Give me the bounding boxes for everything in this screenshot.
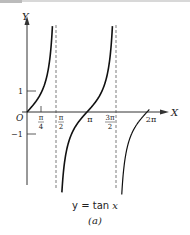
svg-text:4: 4 bbox=[39, 123, 44, 131]
x-tick-label-pi: π bbox=[87, 115, 92, 124]
y-tick-label-minus-1: −1 bbox=[11, 130, 23, 139]
origin-label: O bbox=[16, 113, 24, 123]
chart-subcaption: (a) bbox=[0, 215, 190, 226]
svg-text:π: π bbox=[39, 114, 44, 122]
x-tick-label-pi-over-4: π 4 bbox=[38, 114, 44, 131]
x-axis-label: X bbox=[170, 107, 179, 118]
svg-text:π: π bbox=[59, 114, 64, 122]
x-tick-label-3pi-over-2: 3π 2 bbox=[105, 114, 115, 131]
svg-text:3π: 3π bbox=[105, 114, 114, 122]
x-tick-label-pi-over-2: π 2 bbox=[58, 114, 64, 131]
x-axis-arrow-icon bbox=[160, 110, 169, 115]
tan-branch-2 bbox=[62, 26, 113, 192]
top-border-mark bbox=[0, 0, 22, 3]
chart-equation: y = tan x bbox=[0, 200, 190, 211]
y-tick-label-1: 1 bbox=[18, 87, 23, 96]
tan-branch-1 bbox=[27, 26, 52, 112]
top-border bbox=[0, 0, 190, 2]
x-tick-label-2pi: 2π bbox=[146, 115, 156, 124]
svg-text:2: 2 bbox=[59, 123, 63, 131]
y-axis-label: Y bbox=[22, 11, 30, 22]
svg-text:2: 2 bbox=[108, 123, 112, 131]
